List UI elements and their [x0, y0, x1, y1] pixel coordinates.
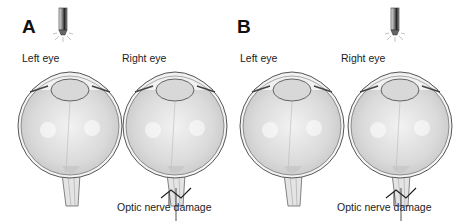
panel-a [18, 8, 227, 221]
eye-label-right: Right eye [122, 52, 166, 64]
panel-a-left-eye [18, 72, 122, 206]
panel-letter-b: B [237, 16, 251, 38]
panel-letter-a: A [22, 16, 36, 38]
panel-b-right-eye [348, 72, 452, 221]
eye-label-left: Left eye [240, 52, 277, 64]
penlight-icon [53, 8, 73, 42]
eye-label-left: Left eye [22, 52, 59, 64]
diagram-canvas [0, 0, 460, 224]
eye-label-right: Right eye [341, 52, 385, 64]
panel-a-right-eye [123, 72, 227, 221]
panel-b-left-eye [240, 72, 344, 206]
panel-b [240, 8, 452, 221]
optic-nerve-damage-label: Optic nerve damage [117, 201, 212, 213]
optic-nerve-damage-label: Optic nerve damage [337, 201, 432, 213]
penlight-icon [385, 8, 405, 42]
